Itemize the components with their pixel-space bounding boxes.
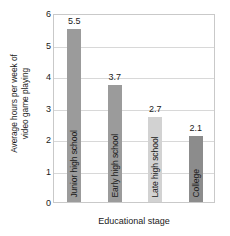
bar-category-label: College [191,170,200,198]
bar: Early high school [108,85,122,202]
bar: Junior high school [67,29,81,202]
y-tick-label: 4 [36,73,51,82]
bar-value-label: 2.1 [177,124,215,133]
bar: Late high school [148,117,162,202]
bar-value-label: 3.7 [96,73,134,82]
bar-category-label: Early high school [110,134,119,198]
y-axis-label-line-2: video game playing [19,54,30,153]
y-tick-label: 1 [36,167,51,176]
y-tick-label: 5 [36,41,51,50]
y-axis-label-line-1: Average hours per week of [9,54,20,153]
bar-value-label: 2.7 [136,105,174,114]
bar-series: Junior high school5.5Early high school3.… [54,15,214,202]
bar-category-label: Late high school [151,137,160,198]
y-tick-label: 6 [36,10,51,19]
y-axis-label: Average hours per week of video game pla… [0,0,38,206]
bar-value-label: 5.5 [55,17,93,26]
bar-group: College2.1 [176,15,217,202]
bar-category-label: Junior high school [70,131,79,198]
bar-group: Early high school3.7 [95,15,136,202]
plot-area: Junior high school5.5Early high school3.… [53,14,215,203]
y-tick-label: 2 [36,136,51,145]
y-tick-label: 0 [36,199,51,208]
bar: College [189,136,203,202]
x-axis-label: Educational stage [53,216,215,226]
bar-chart-figure: Average hours per week of video game pla… [0,0,230,236]
bar-group: Late high school2.7 [135,15,176,202]
y-tick-label: 3 [36,104,51,113]
bar-group: Junior high school5.5 [54,15,95,202]
y-axis-ticks: 0123456 [36,14,51,203]
